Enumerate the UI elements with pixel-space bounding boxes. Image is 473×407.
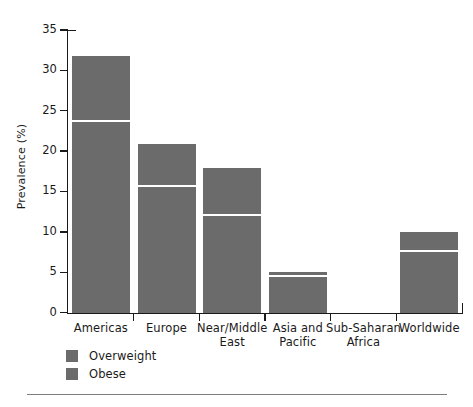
y-tick-mark — [60, 191, 68, 192]
figure-container: Prevalence (%) 35302520151050 AmericasEu… — [0, 0, 473, 407]
y-tick-label: 5 — [50, 264, 57, 278]
y-tick-mark — [60, 29, 68, 30]
bar-segment-overweight — [269, 272, 327, 276]
bar-segment-obese — [400, 252, 458, 313]
bar-segment-overweight — [72, 56, 130, 119]
legend-label-obese: Obese — [89, 367, 126, 381]
bar-stack — [138, 144, 196, 313]
bar-segment-obese — [269, 277, 327, 313]
x-tick-mark — [396, 313, 397, 321]
bar-segment-obese — [138, 187, 196, 313]
y-tick-mark — [60, 272, 68, 273]
y-tick-label: 20 — [42, 143, 57, 157]
legend-swatch-obese-icon — [66, 368, 78, 380]
x-axis-label: Worldwide — [390, 321, 468, 335]
y-axis-title: Prevalence (%) — [15, 107, 28, 227]
legend-swatch-overweight-icon — [66, 350, 78, 362]
bar-stack — [269, 272, 327, 313]
y-tick-label: 25 — [42, 103, 57, 117]
bar-segment-obese — [72, 122, 130, 313]
bar-stack — [400, 232, 458, 313]
x-axis-label-line2: Africa — [325, 335, 403, 349]
bar-stack — [72, 56, 130, 313]
bar-segment-overweight — [203, 168, 261, 214]
y-tick-mark — [60, 110, 68, 111]
legend-item-obese: Obese — [66, 365, 156, 383]
y-tick-mark — [60, 70, 68, 71]
bar-segment-overweight — [138, 144, 196, 185]
y-tick-mark — [60, 231, 68, 232]
y-tick-label: 30 — [42, 62, 57, 76]
x-tick-mark — [330, 313, 331, 321]
bar-stack — [203, 168, 261, 313]
x-tick-mark — [264, 313, 265, 321]
legend-label-overweight: Overweight — [89, 349, 156, 363]
y-tick-label: 10 — [42, 224, 57, 238]
bar-segment-obese — [203, 216, 261, 313]
x-tick-mark — [133, 313, 134, 321]
y-tick-label: 0 — [50, 305, 57, 319]
chart-legend: Overweight Obese — [66, 347, 156, 383]
footer-divider — [27, 394, 447, 395]
y-tick-mark — [60, 312, 68, 313]
y-tick-mark — [60, 150, 68, 151]
x-axis-label-line1: Worldwide — [390, 321, 468, 335]
legend-item-overweight: Overweight — [66, 347, 156, 365]
y-tick-label: 35 — [42, 22, 57, 36]
x-axis-right-cap — [462, 303, 463, 313]
x-tick-mark — [199, 313, 200, 321]
bar-segment-overweight — [400, 232, 458, 249]
y-axis-top-cap — [67, 30, 76, 31]
y-tick-label: 15 — [42, 183, 57, 197]
